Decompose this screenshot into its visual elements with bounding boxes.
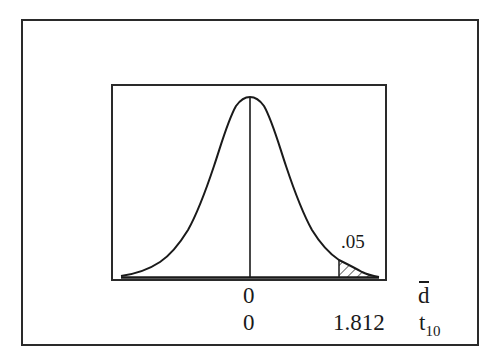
- t-axis-label: t10: [419, 311, 440, 334]
- dbar-letter: d: [418, 284, 430, 307]
- t-critical-value: 1.812: [333, 311, 385, 334]
- dbar-axis-label: d: [418, 284, 430, 307]
- t-zero-tick: 0: [243, 311, 255, 334]
- t-df-subscript: 10: [425, 323, 440, 339]
- dbar-zero-tick: 0: [243, 284, 255, 307]
- tail-area-label: .05: [341, 232, 365, 251]
